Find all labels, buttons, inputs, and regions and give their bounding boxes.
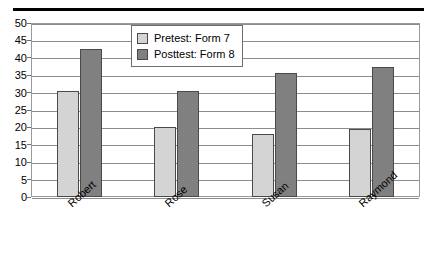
y-axis-tick-label: 25 bbox=[0, 105, 27, 116]
gridline bbox=[32, 145, 419, 146]
legend-swatch-pretest-icon bbox=[137, 33, 148, 44]
y-axis-tick-label: 30 bbox=[0, 87, 27, 98]
y-axis-tick-mark bbox=[27, 92, 31, 93]
y-axis-tick-mark bbox=[27, 179, 31, 180]
y-axis-tick-label: 0 bbox=[0, 192, 27, 203]
y-axis-tick-label: 15 bbox=[0, 139, 27, 150]
y-axis-tick-label: 35 bbox=[0, 70, 27, 81]
y-axis-tick-label: 40 bbox=[0, 52, 27, 63]
y-axis-tick-label: 20 bbox=[0, 122, 27, 133]
y-axis-tick-mark bbox=[27, 197, 31, 198]
y-axis-tick-mark bbox=[27, 127, 31, 128]
legend-label-pretest: Pretest: Form 7 bbox=[154, 33, 230, 44]
y-axis-tick-label: 50 bbox=[0, 18, 27, 29]
y-axis-tick-label: 10 bbox=[0, 157, 27, 168]
gridline bbox=[32, 111, 419, 112]
y-axis-tick-mark bbox=[27, 57, 31, 58]
legend-item-posttest: Posttest: Form 8 bbox=[137, 46, 235, 62]
y-axis-tick-mark bbox=[27, 162, 31, 163]
gridline bbox=[32, 128, 419, 129]
y-axis-tick-label: 5 bbox=[0, 174, 27, 185]
gridline bbox=[32, 76, 419, 77]
y-axis-tick-mark bbox=[27, 144, 31, 145]
legend-label-posttest: Posttest: Form 8 bbox=[154, 49, 235, 60]
chart-legend: Pretest: Form 7 Posttest: Form 8 bbox=[131, 25, 243, 67]
legend-swatch-posttest-icon bbox=[137, 49, 148, 60]
top-divider-rule bbox=[13, 8, 424, 11]
y-axis-tick-label: 45 bbox=[0, 35, 27, 46]
y-axis-tick-mark bbox=[27, 23, 31, 24]
bar-chart-figure: 05101520253035404550 RobertRoseSusanRaym… bbox=[0, 0, 434, 259]
gridline bbox=[32, 93, 419, 94]
y-axis-tick-mark bbox=[27, 75, 31, 76]
legend-item-pretest: Pretest: Form 7 bbox=[137, 30, 235, 46]
y-axis-tick-mark bbox=[27, 110, 31, 111]
gridline bbox=[32, 163, 419, 164]
y-axis: 05101520253035404550 bbox=[0, 23, 27, 197]
y-axis-tick-mark bbox=[27, 40, 31, 41]
x-axis-category-labels: RobertRoseSusanRaymond bbox=[31, 199, 420, 257]
